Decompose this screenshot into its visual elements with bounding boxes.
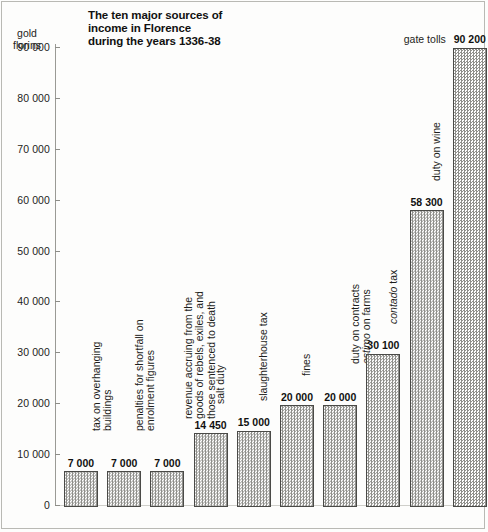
- bar[interactable]: [194, 433, 228, 507]
- bar[interactable]: [323, 405, 357, 507]
- bar-category-label: penalties for shortfall onenrolment figu…: [134, 319, 157, 430]
- bar-group: 58 300duty on wine: [410, 208, 444, 507]
- y-tick-label-50000: 50 000: [0, 246, 50, 257]
- bar-category-label: gate tolls: [404, 33, 446, 45]
- bar-value-label: 7 000: [111, 458, 137, 469]
- bar-category-label-line-0: contado tax: [388, 270, 399, 324]
- bar-category-label: salt duty: [215, 365, 226, 404]
- bar[interactable]: [410, 210, 444, 507]
- bar-group: 15 000slaughterhouse tax: [237, 429, 271, 507]
- y-tick-label-40000: 40 000: [0, 296, 50, 307]
- y-tick-label-90000: 90 000: [0, 42, 50, 53]
- bar[interactable]: [366, 354, 400, 507]
- bar[interactable]: [237, 431, 271, 507]
- bar-category-label: fines: [301, 354, 312, 376]
- bar-category-label-line-0: gate tolls: [404, 33, 446, 45]
- bar-value-label: 58 300: [411, 197, 443, 208]
- bar[interactable]: [150, 471, 184, 507]
- y-tick-label-30000: 30 000: [0, 347, 50, 358]
- bar-category-label: tax on overhangingbuildings: [91, 341, 114, 430]
- bar-value-label: 7 000: [154, 458, 180, 469]
- bar-category-label: slaughterhouse tax: [258, 313, 269, 402]
- bar-group: 14 450salt duty: [194, 431, 228, 507]
- bar-value-label: 20 000: [324, 392, 356, 403]
- plot-area: 7 000tax on overhangingbuildings7 000pen…: [55, 20, 485, 506]
- bar-group: 20 000fines: [280, 403, 314, 507]
- bar-group: 20 000duty on contractsestimo on farms: [323, 403, 357, 507]
- bar-category-label: duty on wine: [431, 122, 442, 181]
- bar[interactable]: [453, 48, 487, 507]
- y-tick-label-0: 0: [0, 500, 50, 511]
- y-tick-label-60000: 60 000: [0, 195, 50, 206]
- y-axis-unit-line-0: gold: [4, 28, 50, 40]
- bar-chart-figure: goldflorins The ten major sources ofinco…: [0, 0, 488, 532]
- bar[interactable]: [107, 471, 141, 507]
- bar-group: 90 200gate tolls: [453, 46, 487, 507]
- y-tick-label-70000: 70 000: [0, 144, 50, 155]
- y-tick-label-80000: 80 000: [0, 93, 50, 104]
- y-tick-label-10000: 10 000: [0, 449, 50, 460]
- bar-category-label-line-0: salt duty: [215, 365, 226, 404]
- bar-value-label: 14 450: [195, 420, 227, 431]
- bar-value-label: 7 000: [68, 458, 94, 469]
- bar-group: 30 100contado tax: [366, 352, 400, 507]
- bar-category-label-line-1: buildings: [102, 341, 113, 430]
- bar-value-label: 15 000: [238, 417, 270, 428]
- bar-group: 7 000penalties for shortfall onenrolment…: [107, 469, 141, 507]
- bar[interactable]: [64, 471, 98, 507]
- bar-category-label: revenue accruing from thegoods of rebels…: [183, 291, 217, 419]
- bar-group: 7 000revenue accruing from thegoods of r…: [150, 469, 184, 507]
- bar-value-label: 90 200: [454, 34, 486, 45]
- bar[interactable]: [280, 405, 314, 507]
- bar-category-label-line-0: duty on wine: [431, 122, 442, 181]
- bar-category-label-line-1: enrolment figures: [145, 319, 156, 430]
- bar-category-label: contado tax: [388, 270, 399, 324]
- bar-value-label: 30 100: [367, 340, 399, 351]
- bar-value-label: 20 000: [281, 392, 313, 403]
- bar-category-label-line-0: fines: [301, 354, 312, 376]
- bar-category-label-line-0: slaughterhouse tax: [258, 313, 269, 402]
- y-tick-label-20000: 20 000: [0, 398, 50, 409]
- bar-group: 7 000tax on overhangingbuildings: [64, 469, 98, 507]
